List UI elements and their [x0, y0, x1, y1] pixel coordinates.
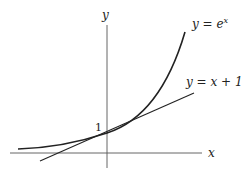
y-axis-label: y: [101, 8, 109, 22]
exp-curve-label: y = ex: [191, 16, 229, 31]
diagram-canvas: y x 1 y = ex y = x + 1: [0, 0, 243, 175]
intercept-label: 1: [95, 121, 102, 134]
tangent-line-label: y = x + 1: [185, 75, 243, 89]
tangent-line: [40, 93, 194, 161]
x-axis-label: x: [208, 146, 215, 160]
